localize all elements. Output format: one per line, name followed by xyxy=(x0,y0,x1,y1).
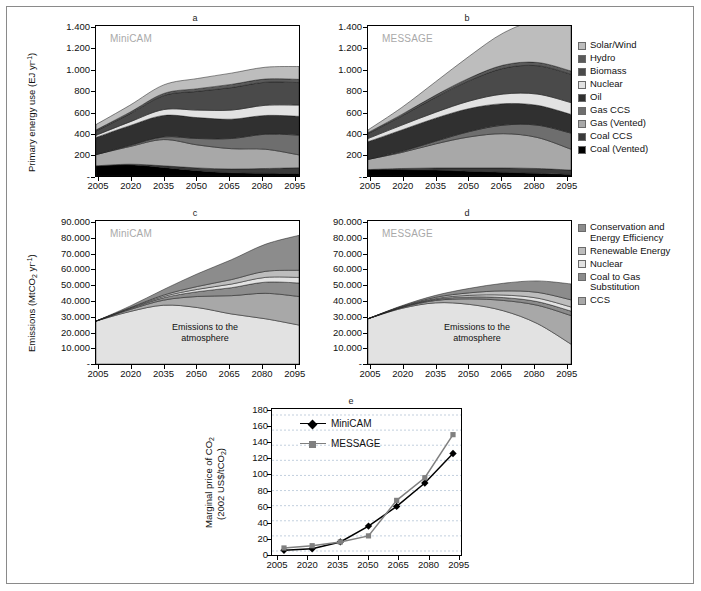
energy-legend-item: Nuclear xyxy=(578,79,690,90)
xtick-mark xyxy=(429,556,430,560)
ytick-label: 1.400 xyxy=(46,21,90,32)
ytick-label: 10.000 xyxy=(46,342,90,353)
data-point-marker xyxy=(310,543,315,548)
ytick-label: 1.400 xyxy=(318,21,362,32)
ytick-label: 80.000 xyxy=(318,232,362,243)
energy-legend-label: Coal (Vented) xyxy=(590,144,648,155)
emissions-legend-label: CCS xyxy=(590,295,610,306)
emissions-legend-item: Renewable Energy xyxy=(578,246,690,257)
panel-b-model-tag: MESSAGE xyxy=(382,33,433,44)
ytick-label: 80.000 xyxy=(46,232,90,243)
panel-a-ylabel: Primary energy use (EJ yr-1) xyxy=(26,53,37,172)
emissions-legend-label: Renewable Energy xyxy=(590,246,670,257)
panel-c-model-tag: MiniCAM xyxy=(110,228,152,239)
panel-e-legend-item: MiniCAM xyxy=(300,418,380,429)
panel-a-ylabel-sup: -1 xyxy=(26,56,33,62)
panel-a-ylabel-main: Primary energy use (EJ yr xyxy=(26,62,37,172)
ytick-label: 1.200 xyxy=(46,42,90,53)
xtick-mark xyxy=(98,365,99,369)
xtick-mark xyxy=(368,556,369,560)
legend-line-swatch xyxy=(300,423,326,424)
xtick-mark xyxy=(501,177,502,181)
energy-legend-item: Hydro xyxy=(578,53,690,64)
xtick-mark xyxy=(229,365,230,369)
panel-c-ylabel: Emissions (MtCO2 yr-1) xyxy=(26,254,38,352)
legend-marker-icon xyxy=(308,419,318,429)
xtick-label: 2095 xyxy=(439,559,479,570)
xtick-mark xyxy=(567,177,568,181)
panel-e-ylabel-pre: Marginal price of CO xyxy=(203,441,214,528)
legend-color-swatch xyxy=(578,247,586,255)
legend-color-swatch xyxy=(578,55,586,63)
xtick-mark xyxy=(338,556,339,560)
ytick-label: 40.000 xyxy=(46,295,90,306)
ytick-label: 400 xyxy=(46,128,90,139)
panel-b-letter: b xyxy=(447,13,487,23)
data-point-marker xyxy=(450,432,455,437)
xtick-mark xyxy=(534,177,535,181)
ytick-label: 60 xyxy=(224,501,268,512)
xtick-mark xyxy=(277,556,278,560)
energy-legend-label: Biomass xyxy=(590,66,626,77)
panel-e-ylabel-line2-end: ) xyxy=(215,448,226,451)
panel-e-ylabel: Marginal price of CO2 xyxy=(203,437,215,528)
legend-color-swatch xyxy=(578,81,586,89)
ytick-label: 70.000 xyxy=(46,248,90,259)
panel-c-ylabel-sub: 2 xyxy=(31,274,38,278)
xtick-mark xyxy=(229,177,230,181)
xtick-mark xyxy=(436,365,437,369)
emissions-legend-item: Coal to Gas Substitution xyxy=(578,272,690,293)
ytick-label: 600 xyxy=(318,107,362,118)
emissions-legend-label: Coal to Gas Substitution xyxy=(590,272,690,293)
legend-color-swatch xyxy=(578,297,586,305)
panel-e-legend-label: MESSAGE xyxy=(331,438,380,449)
data-point-marker xyxy=(366,533,371,538)
xtick-mark xyxy=(164,177,165,181)
ytick-label: 60.000 xyxy=(318,263,362,274)
data-point-marker xyxy=(422,475,427,480)
xtick-label: 2095 xyxy=(547,368,587,379)
panel-e-legend-item: MESSAGE xyxy=(300,438,380,449)
ytick-label: 160 xyxy=(224,420,268,431)
panel-c-ylabel-sup: -1 xyxy=(26,257,33,263)
emissions-legend: Conservation and Energy EfficiencyRenewa… xyxy=(578,222,690,308)
ytick-label: 140 xyxy=(224,436,268,447)
energy-legend-item: Gas CCS xyxy=(578,105,690,116)
ytick-label: 200 xyxy=(46,149,90,160)
legend-color-swatch xyxy=(578,107,586,115)
ytick-label: 20.000 xyxy=(318,327,362,338)
xtick-mark xyxy=(436,177,437,181)
ytick-label: 1.000 xyxy=(46,64,90,75)
xtick-label: 2095 xyxy=(275,180,315,191)
xtick-mark xyxy=(295,177,296,181)
ytick-label: 30.000 xyxy=(46,311,90,322)
energy-legend: Solar/WindHydroBiomassNuclearOilGas CCSG… xyxy=(578,40,690,157)
legend-color-swatch xyxy=(578,94,586,102)
ytick-label: 80 xyxy=(224,485,268,496)
ytick-label: 90.000 xyxy=(318,216,362,227)
xtick-mark xyxy=(262,177,263,181)
xtick-mark xyxy=(307,556,308,560)
energy-legend-item: Oil xyxy=(578,92,690,103)
panel-a-ylabel-end: ) xyxy=(26,53,37,56)
ytick-label: 50.000 xyxy=(318,279,362,290)
ytick-label: 1.200 xyxy=(318,42,362,53)
xtick-mark xyxy=(567,365,568,369)
panel-b-plot xyxy=(367,25,572,177)
ytick-label: 20 xyxy=(224,533,268,544)
ytick-label: 200 xyxy=(318,149,362,160)
panel-c-area-note: Emissions to the atmosphere xyxy=(135,322,275,344)
panel-e-legend-label: MiniCAM xyxy=(331,418,372,429)
xtick-mark xyxy=(468,177,469,181)
legend-color-swatch xyxy=(578,146,586,154)
xtick-mark xyxy=(398,556,399,560)
legend-color-swatch xyxy=(578,260,586,268)
emissions-legend-item: CCS xyxy=(578,295,690,306)
panel-d-model-tag: MESSAGE xyxy=(382,228,433,239)
ytick-label: 800 xyxy=(46,85,90,96)
energy-legend-item: Solar/Wind xyxy=(578,40,690,51)
ytick-label: 10.000 xyxy=(318,342,362,353)
ytick-label: 20.000 xyxy=(46,327,90,338)
xtick-mark xyxy=(295,365,296,369)
energy-legend-label: Oil xyxy=(590,92,602,103)
